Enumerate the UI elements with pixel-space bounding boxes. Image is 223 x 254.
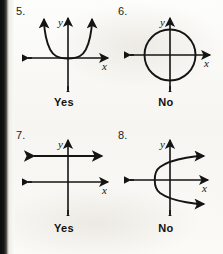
y-axis-label: y [159,138,165,150]
problem-item-7: 7. [14,128,114,252]
rightward-parabola-graph: y x [124,128,216,216]
y-axis-label: y [57,16,63,28]
upward-parabola-graph: y x [22,4,114,92]
y-axis-label: y [159,16,165,28]
x-axis-label: x [101,184,107,196]
x-axis-label: x [201,182,207,194]
problem-grid: 5. [0,0,223,254]
answer-label: Yes [14,96,114,108]
problem-item-5: 5. [14,4,114,126]
problem-item-6: 6. y [116,4,216,126]
answer-label: No [116,96,216,108]
worksheet-page: 5. [0,0,223,254]
x-axis-label: x [101,60,107,72]
problem-item-8: 8. [116,128,216,252]
y-axis-label: y [57,138,63,150]
horizontal-line-graph: y x [22,128,114,216]
answer-label: No [116,222,216,234]
answer-label: Yes [14,222,114,234]
x-axis-label: x [203,57,209,69]
circle-graph: y x [124,4,216,92]
